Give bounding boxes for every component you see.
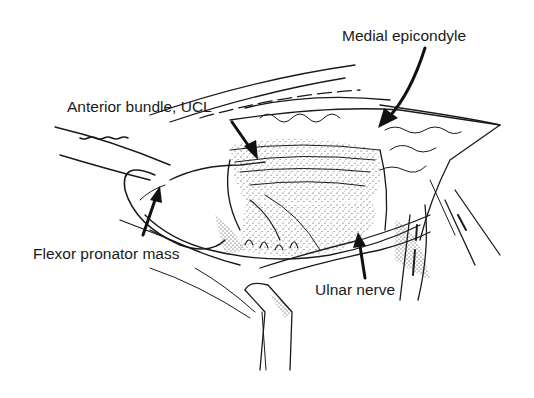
label-flexor-pronator-mass: Flexor pronator mass <box>33 246 179 262</box>
label-ulnar-nerve: Ulnar nerve <box>315 282 395 298</box>
anatomy-illustration: Medial epicondyle Anterior bundle, UCL F… <box>0 0 534 398</box>
elbow-line-drawing <box>0 0 534 398</box>
label-medial-epicondyle: Medial epicondyle <box>342 28 466 44</box>
label-anterior-bundle-ucl: Anterior bundle, UCL <box>67 99 212 115</box>
